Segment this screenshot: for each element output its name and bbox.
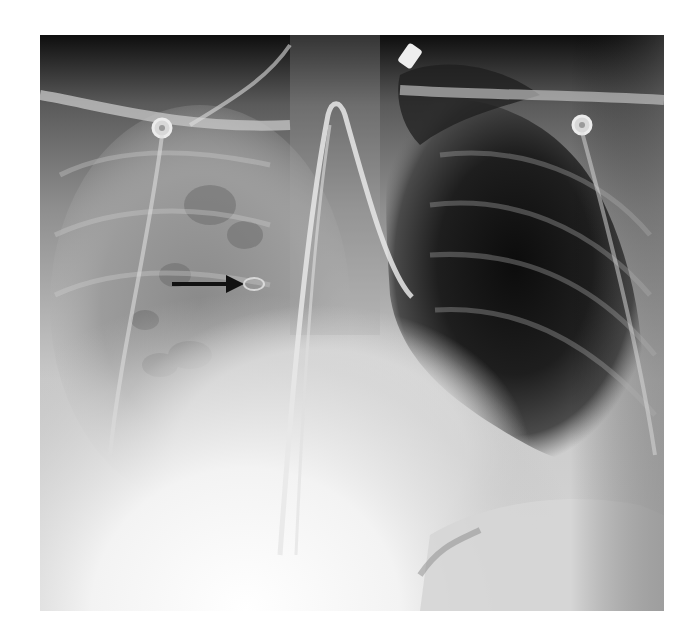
xray-image bbox=[40, 35, 664, 611]
ecg-electrode-icon bbox=[153, 119, 171, 137]
xray-graphic bbox=[40, 35, 664, 611]
ecg-electrode-icon bbox=[573, 116, 591, 134]
